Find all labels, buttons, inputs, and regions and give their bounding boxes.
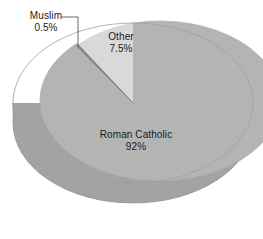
pie-label-muslim: Muslim 0.5% bbox=[18, 10, 74, 33]
pie-label-muslim-percent: 0.5% bbox=[18, 22, 74, 34]
pie-label-other-name: Other bbox=[108, 31, 134, 42]
pie-label-roman-catholic-name: Roman Catholic bbox=[100, 129, 173, 140]
pie-chart: Muslim 0.5% Other 7.5% Roman Catholic 92… bbox=[0, 0, 263, 239]
pie-label-muslim-name: Muslim bbox=[30, 10, 62, 21]
pie-label-roman-catholic: Roman Catholic 92% bbox=[88, 129, 184, 152]
pie-label-other-percent: 7.5% bbox=[96, 43, 146, 55]
pie-label-roman-catholic-percent: 92% bbox=[88, 141, 184, 153]
pie-label-other: Other 7.5% bbox=[96, 31, 146, 54]
